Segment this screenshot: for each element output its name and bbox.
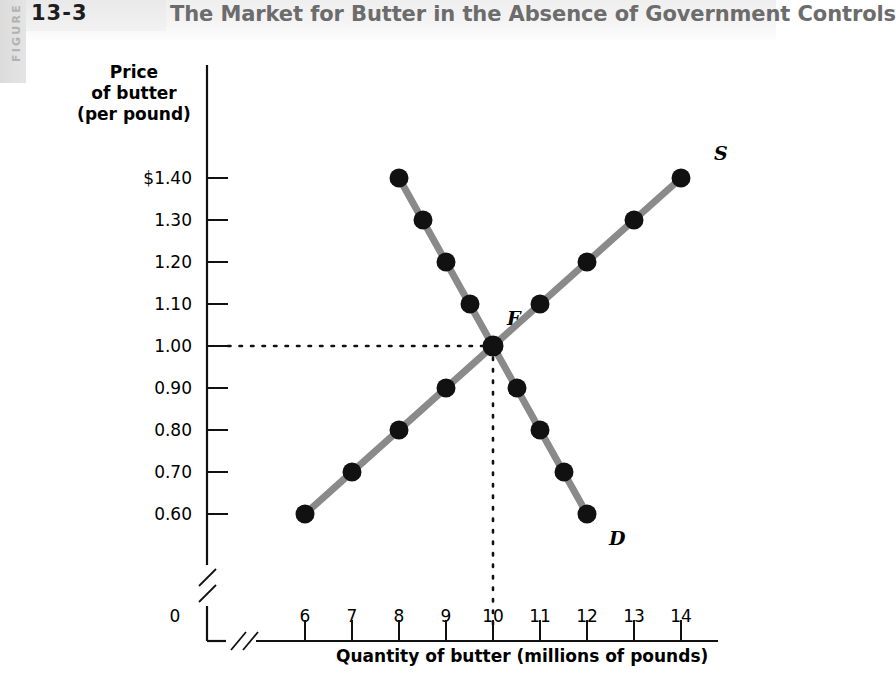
- supply-point-7: [343, 463, 362, 482]
- supply-point-9: [437, 379, 456, 398]
- y-axis-ticks: [207, 178, 228, 514]
- y-axis-break-icon: [199, 569, 216, 602]
- figure-plot-area: Price of butter (per pound) Quantity of …: [0, 40, 776, 691]
- supply-point-11: [531, 295, 550, 314]
- supply-point-8: [390, 421, 409, 440]
- demand-point-8.5: [414, 211, 433, 230]
- demand-point-10.5: [508, 379, 527, 398]
- x-axis-break-icon: [231, 632, 258, 650]
- chart-svg: [0, 40, 776, 691]
- demand-point-9.5: [461, 295, 480, 314]
- supply-point-6: [296, 505, 315, 524]
- demand-point-11: [531, 421, 550, 440]
- demand-point-11.5: [555, 463, 574, 482]
- demand-point-9: [437, 253, 456, 272]
- demand-point-8: [390, 169, 409, 188]
- supply-point-14: [672, 169, 691, 188]
- figure-title: The Market for Butter in the Absence of …: [170, 2, 896, 26]
- supply-point-12: [578, 253, 597, 272]
- supply-point-13: [625, 211, 644, 230]
- demand-point-12: [578, 505, 597, 524]
- figure-number: 13-3: [31, 1, 88, 25]
- equilibrium-point: [483, 336, 504, 357]
